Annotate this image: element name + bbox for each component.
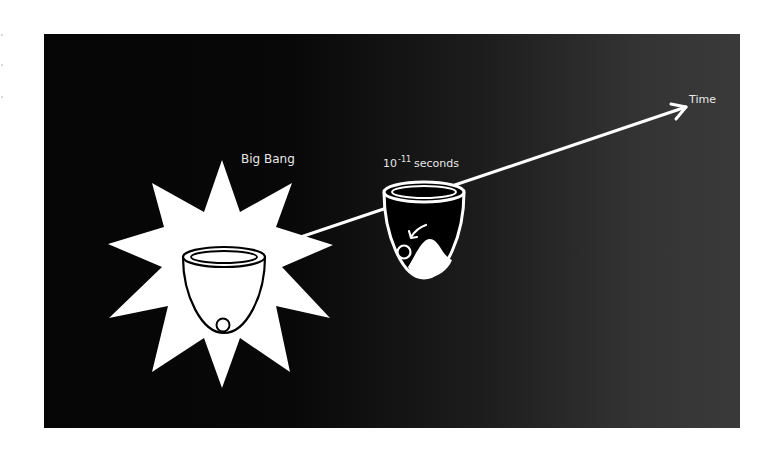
diagram-figure: Big Bang 10-11seconds Time: [0, 0, 776, 454]
time-base: 10: [383, 157, 397, 170]
time-exponent: -11: [398, 155, 411, 164]
big-bang-label: Big Bang: [241, 152, 295, 166]
time-arrow: [274, 104, 686, 246]
diagram-panel: Big Bang 10-11seconds Time: [44, 34, 740, 428]
time-axis-label: Time: [689, 93, 716, 106]
time-unit: seconds: [414, 157, 459, 170]
time-10e-11-seconds-label: 10-11seconds: [383, 155, 459, 170]
scan-artifact-dot: [1, 34, 3, 36]
cup-10e-11-seconds-icon: [384, 182, 464, 278]
scan-artifact-dot: [1, 96, 3, 98]
ball-icon: [398, 246, 411, 259]
scan-artifact-dot: [1, 64, 3, 66]
ball-icon: [217, 319, 230, 332]
